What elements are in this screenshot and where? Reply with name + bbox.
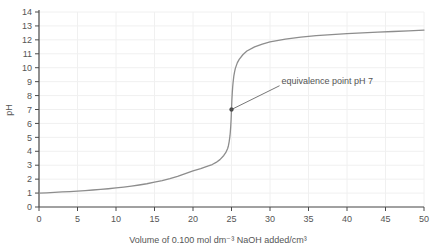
- y-tick-label: 8: [27, 91, 32, 101]
- x-axis-title: Volume of 0.100 mol dm⁻³ NaOH added/cm³: [129, 235, 307, 245]
- x-tick-label: 25: [226, 214, 236, 224]
- y-tick-label: 11: [23, 49, 32, 59]
- annotation-leader-line: [232, 86, 280, 110]
- annotation-group: equivalence point pH 7: [230, 76, 374, 112]
- y-tick-label: 2: [27, 174, 32, 184]
- x-axis-tick-labels: 05101520253035404550: [36, 214, 429, 224]
- y-axis-tick-labels: 01234567891011121314: [22, 7, 32, 212]
- equivalence-point-label: equivalence point pH 7: [282, 76, 374, 86]
- chart-svg: 01234567891011121314 0510152025303540455…: [0, 0, 431, 247]
- y-tick-label: 10: [22, 63, 32, 73]
- x-tick-label: 20: [188, 214, 198, 224]
- y-tick-label: 3: [27, 160, 32, 170]
- y-tick-label: 0: [27, 202, 32, 212]
- y-tick-label: 5: [27, 133, 32, 143]
- y-tick-label: 4: [27, 146, 32, 156]
- y-tick-label: 1: [27, 188, 32, 198]
- y-tick-label: 9: [27, 77, 32, 87]
- x-axis-ticks: [39, 207, 424, 211]
- x-tick-label: 0: [36, 214, 41, 224]
- x-tick-label: 5: [75, 214, 80, 224]
- y-tick-label: 7: [27, 105, 32, 115]
- x-tick-label: 35: [303, 214, 313, 224]
- x-tick-label: 40: [342, 214, 352, 224]
- ph-titration-chart: 01234567891011121314 0510152025303540455…: [0, 0, 431, 247]
- x-tick-label: 30: [265, 214, 275, 224]
- x-tick-label: 10: [111, 214, 121, 224]
- y-tick-label: 6: [27, 119, 32, 129]
- x-tick-label: 15: [149, 214, 159, 224]
- y-tick-label: 13: [22, 21, 32, 31]
- x-tick-label: 50: [419, 214, 429, 224]
- y-axis-title: pH: [4, 104, 14, 116]
- y-tick-label: 14: [22, 7, 32, 17]
- y-tick-label: 12: [22, 35, 32, 45]
- equivalence-point-marker: [230, 108, 234, 112]
- x-tick-label: 45: [380, 214, 390, 224]
